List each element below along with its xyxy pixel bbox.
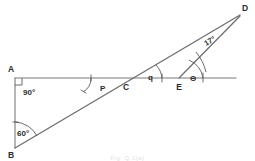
- angle-label-P: P: [100, 84, 106, 93]
- geometry-figure: A B C E D 90° 60° P q Θ 17° Fig. Q.1(a): [0, 0, 255, 161]
- angle-label-60: 60°: [17, 129, 29, 138]
- right-angle-square-at-A: [15, 78, 22, 85]
- angle-label-q: q: [148, 73, 153, 82]
- point-label-C: C: [123, 82, 129, 92]
- segment-E-D: [179, 16, 240, 78]
- angle-label-theta: Θ: [190, 74, 196, 83]
- figure-caption: Fig. Q.1(a): [0, 155, 255, 161]
- angle-label-90: 90°: [23, 88, 35, 97]
- angle-arc-P-at-C: [83, 78, 91, 92]
- point-label-A: A: [8, 64, 14, 74]
- geometry-canvas: A B C E D 90° 60° P q Θ 17°: [0, 0, 255, 161]
- point-label-E: E: [176, 82, 182, 92]
- angle-arc-q-at-C: [156, 65, 162, 78]
- point-label-D: D: [242, 3, 248, 13]
